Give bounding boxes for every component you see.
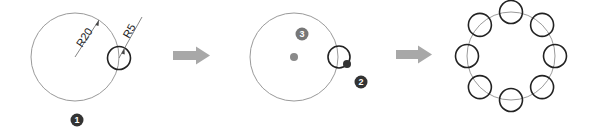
arrow-right-icon <box>173 47 210 65</box>
step3-group <box>456 1 567 112</box>
step2-badge-pivot-label: 2 <box>358 77 363 87</box>
arrow-right-icon <box>396 46 432 64</box>
r20-arrowhead-icon <box>96 20 100 26</box>
step3-big-circle <box>467 12 555 100</box>
r5-dimension-label: R5 <box>120 22 137 40</box>
step2-center-dot <box>290 53 298 61</box>
circular-array-diagram: R20 R5 1 3 2 <box>0 0 595 131</box>
step1-badge-label: 1 <box>74 115 79 125</box>
r20-dimension-label: R20 <box>74 26 95 49</box>
r5-arrowhead-icon <box>122 48 125 55</box>
step1-group: R20 R5 1 <box>31 13 142 127</box>
step2-pivot-dot <box>343 60 351 68</box>
step2-group: 3 2 <box>250 13 368 101</box>
step2-badge-center-label: 3 <box>299 29 304 39</box>
